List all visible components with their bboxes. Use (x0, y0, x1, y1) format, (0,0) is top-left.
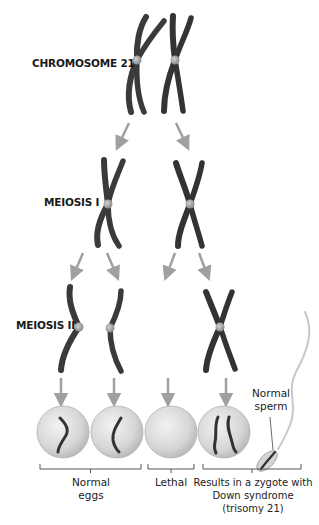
outcome-down-syndrome: Results in a zygote with Down syndrome (… (192, 476, 314, 515)
egg-cell-normal-2 (91, 406, 143, 458)
outcome-line: Normal (60, 476, 122, 489)
outcome-lethal: Lethal (148, 476, 194, 489)
meiosis-1-label: MEIOSIS I (44, 196, 99, 208)
arrow-icon (176, 123, 186, 144)
bracket-normal-eggs (40, 464, 141, 473)
arrow-icon (119, 123, 129, 144)
arrow-icon (107, 253, 116, 274)
arrow-icon (167, 253, 175, 274)
outcome-normal-eggs: Normal eggs (60, 476, 122, 502)
centromere (216, 323, 225, 332)
centromere (75, 323, 84, 332)
arrows-to-meiosis-2 (74, 253, 207, 274)
meiosis-2-chromosomes (61, 287, 235, 371)
centromere (104, 200, 113, 209)
egg-cell-disomic (198, 406, 250, 458)
normal-sperm-label: Normal sperm (246, 387, 296, 413)
bracket-lethal (148, 464, 194, 473)
chromosome-21-label: CHROMOSOME 21 (32, 57, 135, 69)
arrows-to-meiosis-1 (119, 123, 186, 144)
sperm-label-leader (270, 417, 273, 450)
centromere (171, 56, 180, 65)
outcome-line: Results in a zygote with (192, 476, 314, 489)
bracket-down-syndrome (203, 464, 301, 473)
meiosis-2-label: MEIOSIS II (16, 319, 75, 331)
outcome-line: eggs (60, 489, 122, 502)
outcome-line: Down syndrome (192, 489, 314, 502)
arrow-icon (199, 253, 207, 274)
outcome-line: Lethal (148, 476, 194, 489)
arrows-to-gametes (61, 378, 226, 400)
normal-sperm-label-line2: sperm (246, 400, 296, 413)
egg-cell-normal-1 (37, 406, 89, 458)
chromosome-21-pair (129, 16, 191, 112)
egg-cell-lethal-empty (145, 406, 197, 458)
sperm-tail (278, 312, 309, 449)
centromere (186, 200, 195, 209)
outcome-line: (trisomy 21) (192, 502, 314, 515)
normal-sperm-label-line1: Normal (246, 387, 296, 400)
centromere (106, 324, 115, 333)
arrow-icon (74, 253, 83, 274)
meiosis-nondisjunction-diagram (0, 0, 319, 525)
meiosis-1-chromosomes (97, 160, 202, 246)
gamete-cells (37, 406, 250, 458)
